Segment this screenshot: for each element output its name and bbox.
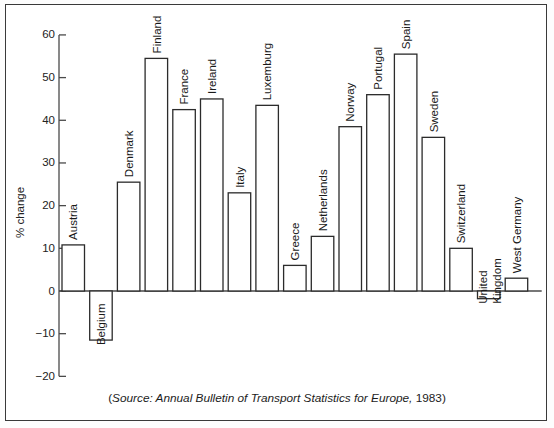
bar bbox=[394, 54, 417, 291]
bar bbox=[367, 95, 390, 291]
bar-category-label: Italy bbox=[234, 166, 246, 187]
bar-category-label: France bbox=[178, 69, 190, 105]
bar-group: Netherlands bbox=[311, 169, 334, 291]
bar-group: Spain bbox=[394, 20, 417, 291]
bar-group: Greece bbox=[284, 223, 307, 291]
bar bbox=[228, 193, 251, 291]
bar-category-label: Portugal bbox=[372, 47, 384, 90]
bar bbox=[505, 278, 528, 291]
bar-group: Belgium bbox=[90, 291, 113, 345]
bar-group: Italy bbox=[228, 166, 251, 291]
bar bbox=[422, 137, 445, 291]
bar-category-label: West Germany bbox=[511, 196, 523, 273]
y-axis-tick-label: 30 bbox=[42, 156, 55, 168]
bar-category-label: Denmark bbox=[123, 130, 135, 177]
y-axis-tick-label: −10 bbox=[35, 327, 55, 339]
bar-category-label: Belgium bbox=[95, 304, 107, 346]
y-axis-tick-label: 20 bbox=[42, 199, 55, 211]
caption-year: 1983 bbox=[412, 391, 442, 405]
bar bbox=[173, 110, 196, 291]
source-caption: (Source: Annual Bulletin of Transport St… bbox=[0, 391, 554, 405]
bar-category-label: Greece bbox=[289, 223, 301, 261]
y-axis-tick-label: 0 bbox=[49, 285, 55, 297]
bar-category-label: Ireland bbox=[206, 59, 218, 94]
caption-source-text: Source: Annual Bulletin of Transport Sta… bbox=[112, 391, 412, 405]
y-axis-tick-label: 10 bbox=[42, 242, 55, 254]
y-axis-title: % change bbox=[14, 187, 26, 238]
bar-category-label: UnitedKingdom bbox=[477, 258, 502, 303]
y-axis-tick-label: 60 bbox=[42, 28, 55, 40]
bar-chart-plot-area: −20−100102030405060AustriaBelgiumDenmark… bbox=[0, 0, 554, 428]
bar-category-label: Spain bbox=[400, 20, 412, 49]
y-axis-tick-label: 50 bbox=[42, 71, 55, 83]
bar-group: Finland bbox=[145, 16, 168, 291]
bar bbox=[256, 105, 279, 291]
bar-category-label: Luxemburg bbox=[261, 43, 273, 101]
bar-category-label: Finland bbox=[151, 16, 163, 54]
bar-group: France bbox=[173, 69, 196, 291]
y-axis-tick-label: −20 bbox=[35, 370, 55, 382]
bar-category-label: Sweden bbox=[428, 91, 440, 133]
caption-close-paren: ) bbox=[442, 391, 446, 405]
bar bbox=[62, 245, 85, 291]
bar bbox=[201, 99, 224, 291]
bar bbox=[145, 58, 168, 291]
bar-group: Sweden bbox=[422, 91, 445, 291]
bar-group: Austria bbox=[62, 204, 85, 291]
bar-group: UnitedKingdom bbox=[477, 258, 502, 303]
bar-group: Denmark bbox=[117, 130, 139, 291]
bar bbox=[339, 127, 362, 291]
bar-group: West Germany bbox=[505, 196, 528, 291]
bar-chart-svg: −20−100102030405060AustriaBelgiumDenmark… bbox=[0, 0, 554, 428]
bar bbox=[117, 182, 139, 291]
bar-group: Norway bbox=[339, 82, 362, 291]
figure-container: −20−100102030405060AustriaBelgiumDenmark… bbox=[0, 0, 554, 428]
bar bbox=[311, 236, 334, 291]
bar-category-label: Norway bbox=[344, 82, 356, 121]
y-axis-tick-label: 40 bbox=[42, 114, 55, 126]
bar-group: Portugal bbox=[367, 47, 390, 291]
bar-group: Luxemburg bbox=[256, 43, 279, 291]
bar-category-label: Switzerland bbox=[455, 184, 467, 243]
bar bbox=[450, 248, 473, 291]
bar bbox=[284, 265, 307, 291]
bar-category-label: Netherlands bbox=[317, 169, 329, 231]
bar-group: Ireland bbox=[201, 59, 224, 291]
bar-category-label: Austria bbox=[67, 204, 79, 240]
bar-group: Switzerland bbox=[450, 184, 473, 291]
